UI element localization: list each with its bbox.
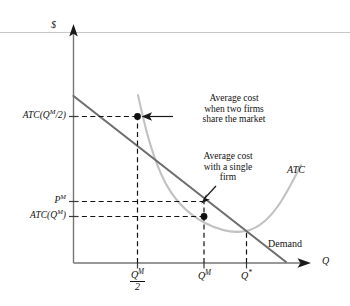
y-label-atc-monopoly: ATC(QM) [0, 210, 66, 221]
economics-chart-figure: $ Q ATC(QM/2) PM ATC(QM) QM 2 QM Q* ATC … [0, 0, 350, 306]
y-label-atc-half: ATC(QM/2) [0, 110, 66, 121]
q-monopoly-sup: M [205, 269, 211, 277]
annotation-two-firms-line1: Average cost [176, 93, 292, 104]
y-label-atc-half-suffix: /2) [55, 110, 66, 120]
q-efficient-sup: * [248, 269, 252, 277]
annotation-single-firm-line2: with a single [174, 162, 282, 173]
data-point-atc-monopoly [201, 213, 208, 220]
demand-curve-label: Demand [268, 238, 302, 249]
annotation-two-firms-line2: when two firms [176, 104, 292, 115]
y-axis-label: $ [51, 19, 56, 30]
q-half-fraction: QM 2 [130, 270, 145, 292]
y-label-price-monopoly: PM [0, 195, 66, 206]
x-tick-marks-group [138, 263, 247, 269]
annotation-two-firms: Average cost when two firms share the ma… [176, 93, 292, 125]
data-point-atc-half [134, 113, 141, 120]
annotation-single-firm-line1: Average cost [174, 151, 282, 162]
x-label-q-monopoly: QM [189, 270, 220, 281]
dashed-guides-group [74, 117, 247, 264]
annotation-single-firm-line3: firm [174, 172, 282, 183]
atc-curve-label: ATC [287, 164, 305, 175]
leader-line-single-firm [205, 186, 217, 199]
y-label-atc-monopoly-prefix: ATC( [30, 210, 50, 220]
x-label-q-efficient: Q* [231, 270, 262, 281]
q-half-numerator: QM [130, 270, 145, 282]
annotation-single-firm: Average cost with a single firm [174, 151, 282, 183]
y-label-price-monopoly-sup: M [60, 193, 66, 200]
q-half-sup: M [138, 268, 144, 276]
y-label-atc-half-q: Q [43, 110, 50, 120]
annotation-two-firms-line3: share the market [176, 114, 292, 125]
annotation-arrow-two-firms [142, 112, 174, 121]
axes-group [69, 24, 311, 268]
x-label-q-half: QM 2 [122, 270, 153, 292]
x-axis-label: Q [322, 255, 329, 266]
y-label-atc-half-prefix: ATC( [23, 110, 43, 120]
q-half-denominator: 2 [130, 282, 145, 293]
y-label-atc-monopoly-suffix: ) [63, 210, 66, 220]
